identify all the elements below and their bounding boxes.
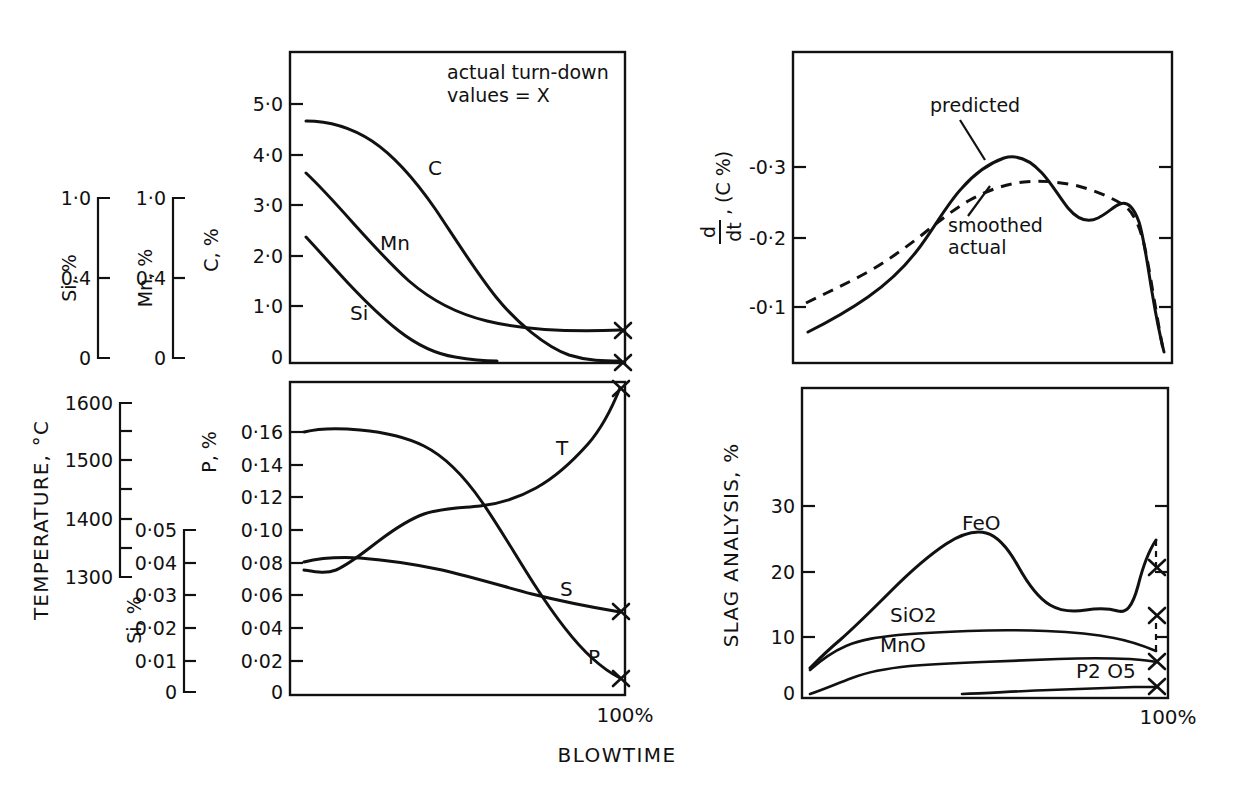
p-tick-002: 0·02 bbox=[241, 650, 283, 672]
p-tick-012: 0·12 bbox=[241, 486, 283, 508]
turndown-marker-t bbox=[613, 381, 629, 396]
p-tick-0: 0 bbox=[271, 681, 283, 703]
c-axis-name: C, % bbox=[200, 228, 222, 271]
curve-label-smoothed: smoothed bbox=[948, 214, 1043, 236]
ddt-tick-label-03: -0·3 bbox=[749, 156, 786, 178]
p-tick-006: 0·06 bbox=[241, 584, 283, 606]
curve-feo bbox=[810, 532, 1156, 668]
p-tick-008: 0·08 bbox=[241, 552, 283, 574]
curve-t bbox=[304, 388, 620, 572]
top-right-panel: -0·3 -0·2 -0·1 d dt , (C %) predicted sm… bbox=[697, 52, 1172, 363]
temperature-axis-name: TEMPERATURE, °C bbox=[29, 420, 53, 621]
p-tick-004: 0·04 bbox=[241, 617, 283, 639]
p-axis-name: P, % bbox=[198, 431, 220, 473]
curve-label-c: C bbox=[428, 156, 442, 180]
turndown-annotation-line1: actual turn-down bbox=[447, 61, 609, 83]
temp-tick-1300: 1300 bbox=[65, 566, 113, 588]
leader-predicted bbox=[960, 120, 985, 160]
curve-label-mn: Mn bbox=[380, 231, 410, 255]
curve-label-feo: FeO bbox=[962, 511, 1000, 535]
c-axis-ticks bbox=[290, 104, 303, 306]
curve-c bbox=[306, 121, 621, 361]
curve-label-p2o5: P2 O5 bbox=[1076, 659, 1136, 683]
si-tick-label-0: 0 bbox=[79, 347, 91, 369]
mn-axis-scale: 1·0 0·4 0 Mn, % bbox=[134, 187, 185, 369]
bottom-right-panel: 30 20 10 0 SLAG ANALYSIS, % FeO SiO2 MnO… bbox=[719, 388, 1197, 729]
temp-tick-1500: 1500 bbox=[65, 449, 113, 471]
slag-tick-10: 10 bbox=[771, 626, 795, 648]
temp-tick-1400: 1400 bbox=[65, 508, 113, 530]
ddt-axis-label: d dt , (C %) bbox=[697, 151, 745, 244]
c-tick-label-4: 4·0 bbox=[253, 144, 283, 166]
si2-tick-005: 0·05 bbox=[135, 519, 177, 541]
multi-panel-steelmaking-chart: 5·0 4·0 3·0 2·0 1·0 0 C, % 1·0 0·4 0 Mn,… bbox=[0, 0, 1235, 799]
turndown-marker-p bbox=[613, 671, 629, 686]
si-bottom-axis-name: Si, % bbox=[123, 596, 145, 643]
c-tick-label-2: 2·0 bbox=[253, 245, 283, 267]
c-tick-label-5: 5·0 bbox=[253, 93, 283, 115]
ddt-axis-units: , (C %) bbox=[712, 151, 734, 215]
c-tick-label-3: 3·0 bbox=[253, 194, 283, 216]
slag-tick-0: 0 bbox=[783, 682, 795, 704]
p-tick-014: 0·14 bbox=[241, 454, 283, 476]
si2-tick-001: 0·01 bbox=[135, 650, 177, 672]
curve-label-sio2: SiO2 bbox=[890, 603, 937, 627]
bottom-right-plot-frame bbox=[802, 388, 1168, 698]
si-bottom-axis-scale: 0·05 0·04 0·03 0·02 0·01 0 Si, % bbox=[123, 519, 196, 703]
curve-si bbox=[306, 237, 497, 361]
curve-label-p: P bbox=[588, 645, 600, 669]
mn-tick-label-1: 1·0 bbox=[136, 187, 166, 209]
curve-label-s: S bbox=[560, 577, 573, 601]
blowtime-100pct-right: 100% bbox=[1139, 705, 1196, 729]
curve-smoothed-actual bbox=[806, 181, 1164, 354]
bottom-left-panel: 0·16 0·14 0·12 0·10 0·08 0·06 0·04 0·02 … bbox=[29, 381, 654, 727]
p-tick-010: 0·10 bbox=[241, 519, 283, 541]
slag-axis-name: SLAG ANALYSIS, % bbox=[719, 443, 743, 648]
figure-canvas: 5·0 4·0 3·0 2·0 1·0 0 C, % 1·0 0·4 0 Mn,… bbox=[0, 0, 1235, 799]
curve-label-t: T bbox=[555, 436, 569, 460]
mn-axis-name: Mn, % bbox=[134, 249, 156, 308]
c-tick-label-1: 1·0 bbox=[253, 295, 283, 317]
curve-label-predicted: predicted bbox=[930, 94, 1020, 116]
leader-smoothed-actual bbox=[968, 186, 990, 216]
p-axis-ticks bbox=[290, 432, 303, 661]
curve-p2o5 bbox=[962, 687, 1158, 694]
slag-tick-20: 20 bbox=[771, 561, 795, 583]
ddt-axis-numerator: d bbox=[697, 226, 719, 238]
ddt-axis-denominator: dt bbox=[723, 222, 745, 242]
c-tick-label-0: 0 bbox=[271, 346, 283, 368]
curve-p bbox=[304, 429, 620, 678]
si-axis-name: Si, % bbox=[58, 254, 80, 301]
ddt-tick-label-02: -0·2 bbox=[749, 227, 786, 249]
curve-label-si: Si bbox=[350, 301, 368, 325]
slag-tick-30: 30 bbox=[771, 495, 795, 517]
si2-tick-004: 0·04 bbox=[135, 552, 177, 574]
si2-tick-0: 0 bbox=[165, 681, 177, 703]
ddt-tick-label-01: -0·1 bbox=[749, 296, 786, 318]
blowtime-100pct-left: 100% bbox=[596, 703, 653, 727]
si-tick-label-1: 1·0 bbox=[61, 187, 91, 209]
curve-label-actual: actual bbox=[948, 236, 1007, 258]
turndown-marker-sio2 bbox=[1149, 608, 1165, 623]
turndown-annotation-line2: values = X bbox=[447, 84, 550, 106]
temp-tick-1600: 1600 bbox=[65, 392, 113, 414]
curve-label-mno: MnO bbox=[880, 633, 926, 657]
blowtime-axis-title: BLOWTIME bbox=[558, 743, 677, 767]
mn-tick-label-0: 0 bbox=[154, 347, 166, 369]
p-tick-016: 0·16 bbox=[241, 421, 283, 443]
top-left-panel: 5·0 4·0 3·0 2·0 1·0 0 C, % 1·0 0·4 0 Mn,… bbox=[58, 52, 631, 370]
si-axis-scale: 1·0 0·4 0 Si, % bbox=[58, 187, 110, 369]
temperature-axis-scale: 1600 1500 1400 1300 TEMPERATURE, °C bbox=[29, 392, 132, 621]
